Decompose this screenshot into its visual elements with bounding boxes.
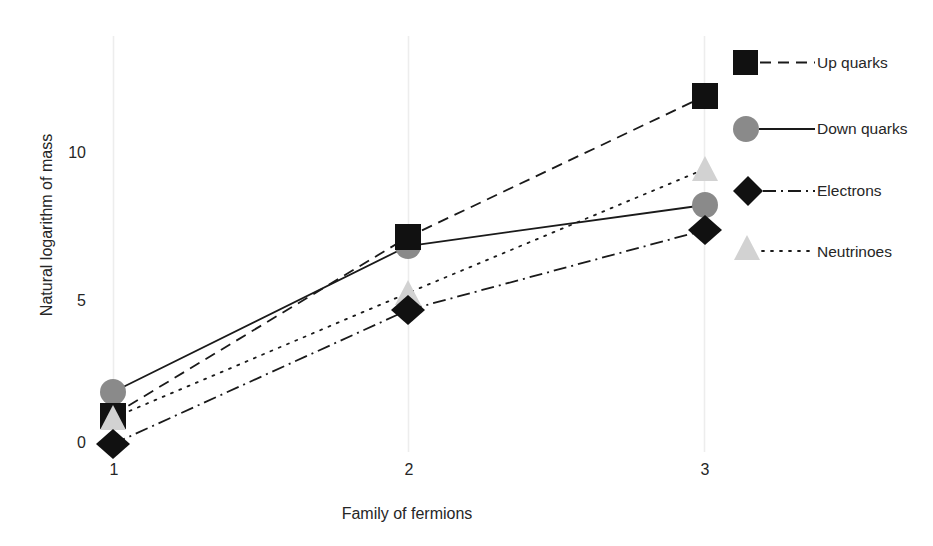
legend-key-up-quarks — [733, 48, 817, 78]
y-tick-label-0: 0 — [46, 434, 86, 452]
legend-item-up-quarks[interactable]: Up quarks — [733, 48, 888, 78]
legend-key-down-quarks — [733, 114, 817, 144]
marker-up-quarks-x3 — [692, 83, 718, 109]
legend-label-up-quarks: Up quarks — [817, 48, 888, 72]
x-tick-label-1: 1 — [94, 461, 134, 479]
legend-label-neutrinoes: Neutrinoes — [817, 232, 892, 261]
y-axis-title: Natural logarithm of mass — [38, 115, 56, 335]
legend-item-electrons[interactable]: Electrons — [733, 176, 882, 206]
marker-up-quarks-x2 — [395, 224, 421, 250]
marker-electrons-x1 — [96, 429, 130, 459]
square-marker-icon — [733, 50, 758, 75]
marker-neutrinoes-x3 — [692, 156, 718, 181]
x-tick-label-3: 3 — [685, 461, 725, 479]
legend-key-electrons — [733, 176, 817, 206]
legend-label-down-quarks: Down quarks — [817, 114, 909, 138]
plot-area — [0, 0, 933, 546]
diamond-marker-icon — [733, 176, 763, 206]
x-tick-label-2: 2 — [389, 461, 429, 479]
marker-electrons-x2 — [391, 295, 425, 325]
legend-label-electrons: Electrons — [817, 176, 882, 200]
x-axis-title: Family of fermions — [0, 505, 814, 523]
legend-item-down-quarks[interactable]: Down quarks — [733, 114, 909, 144]
marker-down-quarks-x3 — [692, 192, 718, 218]
circle-marker-icon — [733, 116, 759, 142]
legend-item-neutrinoes[interactable]: Neutrinoes — [733, 232, 892, 262]
marker-down-quarks-x1 — [100, 379, 126, 405]
marker-electrons-x3 — [688, 215, 722, 245]
triangle-marker-icon — [734, 235, 760, 260]
chart-figure: 10 5 0 1 2 3 Natural logarithm of mass F… — [0, 0, 933, 546]
legend-key-neutrinoes — [733, 232, 817, 262]
